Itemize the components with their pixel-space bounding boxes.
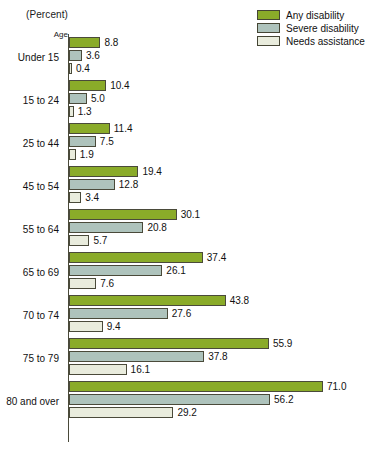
bar-value-label: 20.8 xyxy=(147,222,166,233)
bar-value-label: 3.4 xyxy=(85,192,99,203)
bar-row: 3.6 xyxy=(69,49,118,62)
bar-value-label: 0.4 xyxy=(76,63,90,74)
bar-row: 3.4 xyxy=(69,191,162,204)
bar[interactable] xyxy=(69,381,323,392)
bar-value-label: 8.8 xyxy=(104,37,118,48)
bar-value-label: 10.4 xyxy=(110,80,129,91)
bar-value-label: 55.9 xyxy=(273,338,292,349)
bars-container: 30.120.85.7 xyxy=(69,208,200,247)
bar-row: 11.4 xyxy=(69,122,133,135)
bar-group: 70 to 7443.827.69.4 xyxy=(0,294,381,337)
bar-row: 43.8 xyxy=(69,294,249,307)
category-label: 70 to 74 xyxy=(0,294,65,337)
bar[interactable] xyxy=(69,278,96,289)
bar[interactable] xyxy=(69,179,115,190)
bar-row: 1.9 xyxy=(69,148,133,161)
bar-row: 16.1 xyxy=(69,363,292,376)
bar[interactable] xyxy=(69,93,87,104)
bar-value-label: 12.8 xyxy=(119,179,138,190)
bar-group: Under 158.83.60.4 xyxy=(0,36,381,79)
bar[interactable] xyxy=(69,338,269,349)
bar-value-label: 19.4 xyxy=(142,166,161,177)
legend-swatch-icon xyxy=(257,23,280,33)
bar[interactable] xyxy=(69,265,162,276)
bar[interactable] xyxy=(69,209,177,220)
bar-value-label: 71.0 xyxy=(327,381,346,392)
bar-row: 37.4 xyxy=(69,251,226,264)
category-label: 15 to 24 xyxy=(0,79,65,122)
bar-row: 7.5 xyxy=(69,135,133,148)
legend-item[interactable]: Severe disability xyxy=(257,22,365,34)
bar-chart: (Percent) Age Any disabilitySevere disab… xyxy=(0,0,381,450)
bar-row: 5.0 xyxy=(69,92,130,105)
bar-group: 65 to 6937.426.17.6 xyxy=(0,251,381,294)
bar-group: 55 to 6430.120.85.7 xyxy=(0,208,381,251)
bar[interactable] xyxy=(69,222,143,233)
bar-row: 20.8 xyxy=(69,221,200,234)
category-label: 65 to 69 xyxy=(0,251,65,294)
bar[interactable] xyxy=(69,192,81,203)
bar-value-label: 1.9 xyxy=(80,149,94,160)
bar-row: 27.6 xyxy=(69,307,249,320)
category-label: 25 to 44 xyxy=(0,122,65,165)
bar-row: 12.8 xyxy=(69,178,162,191)
bar[interactable] xyxy=(69,235,89,246)
bar-value-label: 5.0 xyxy=(91,93,105,104)
bar[interactable] xyxy=(69,364,127,375)
bar[interactable] xyxy=(69,394,270,405)
bar-value-label: 9.4 xyxy=(107,321,121,332)
bar[interactable] xyxy=(69,321,103,332)
bar-group: 80 and over71.056.229.2 xyxy=(0,380,381,423)
bar-row: 7.6 xyxy=(69,277,226,290)
bar[interactable] xyxy=(69,123,110,134)
bar-value-label: 26.1 xyxy=(166,265,185,276)
bar[interactable] xyxy=(69,149,76,160)
bar[interactable] xyxy=(69,351,204,362)
legend-label: Severe disability xyxy=(286,23,359,34)
percent-axis-note: (Percent) xyxy=(26,9,68,20)
category-label: 55 to 64 xyxy=(0,208,65,251)
bar-value-label: 37.8 xyxy=(208,351,227,362)
legend-item[interactable]: Any disability xyxy=(257,9,365,21)
bars-container: 71.056.229.2 xyxy=(69,380,346,419)
bar-value-label: 7.6 xyxy=(100,278,114,289)
bar-value-label: 43.8 xyxy=(230,295,249,306)
bar-value-label: 29.2 xyxy=(177,407,196,418)
bar-row: 19.4 xyxy=(69,165,162,178)
bar[interactable] xyxy=(69,37,100,48)
bars-container: 10.45.01.3 xyxy=(69,79,130,118)
legend-swatch-icon xyxy=(257,10,280,20)
bar[interactable] xyxy=(69,50,82,61)
bar-groups: Under 158.83.60.415 to 2410.45.01.325 to… xyxy=(0,36,381,423)
bar[interactable] xyxy=(69,295,226,306)
bar-group: 15 to 2410.45.01.3 xyxy=(0,79,381,122)
bar-row: 26.1 xyxy=(69,264,226,277)
bar-row: 1.3 xyxy=(69,105,130,118)
bar-value-label: 16.1 xyxy=(131,364,150,375)
bar[interactable] xyxy=(69,136,96,147)
bar[interactable] xyxy=(69,407,173,418)
bar[interactable] xyxy=(69,63,72,74)
bar-row: 29.2 xyxy=(69,406,346,419)
bar-row: 56.2 xyxy=(69,393,346,406)
bar[interactable] xyxy=(69,106,74,117)
legend-label: Any disability xyxy=(286,10,344,21)
category-label: 80 and over xyxy=(0,380,65,423)
bar[interactable] xyxy=(69,252,203,263)
bar-value-label: 3.6 xyxy=(86,50,100,61)
bars-container: 8.83.60.4 xyxy=(69,36,118,75)
bar-row: 10.4 xyxy=(69,79,130,92)
bar[interactable] xyxy=(69,166,138,177)
bar-row: 0.4 xyxy=(69,62,118,75)
bar-value-label: 1.3 xyxy=(78,106,92,117)
bar[interactable] xyxy=(69,308,168,319)
bar-value-label: 30.1 xyxy=(181,209,200,220)
bar-value-label: 56.2 xyxy=(274,394,293,405)
bars-container: 43.827.69.4 xyxy=(69,294,249,333)
bar-row: 8.8 xyxy=(69,36,118,49)
bars-container: 55.937.816.1 xyxy=(69,337,292,376)
bar[interactable] xyxy=(69,80,106,91)
bar-group: 75 to 7955.937.816.1 xyxy=(0,337,381,380)
bars-container: 37.426.17.6 xyxy=(69,251,226,290)
bar-value-label: 7.5 xyxy=(100,136,114,147)
